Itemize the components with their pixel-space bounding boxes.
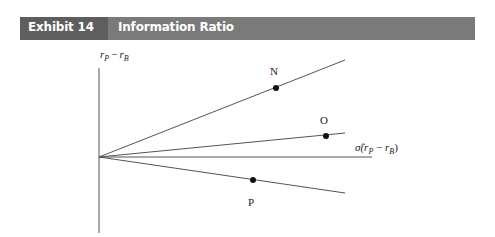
point-p bbox=[250, 177, 256, 183]
point-n bbox=[273, 85, 279, 91]
label-n: N bbox=[270, 65, 278, 77]
point-o bbox=[323, 133, 329, 139]
label-p: P bbox=[248, 196, 254, 208]
information-ratio-diagram: N O P rP−rB σ̂(rP − rB) bbox=[0, 0, 495, 237]
label-o: O bbox=[320, 114, 328, 126]
ray-p bbox=[99, 157, 345, 193]
x-axis-label: σ̂(rP − rB) bbox=[355, 141, 398, 156]
ray-n bbox=[99, 60, 345, 157]
y-axis-label: rP−rB bbox=[100, 48, 129, 63]
ray-o bbox=[99, 133, 345, 157]
